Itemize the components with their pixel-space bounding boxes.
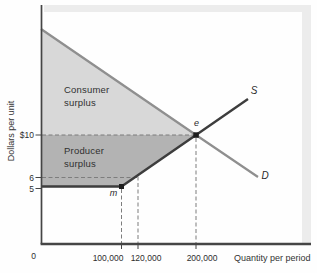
surplus-chart-figure: Dollars per unit $10 6 5 0 100,000 120,0… [0, 0, 317, 273]
x-tick-label-200000: 200,000 [187, 253, 218, 263]
demand-curve-label: D [261, 170, 268, 181]
y-tick-label-6: 6 [0, 173, 34, 183]
origin-label: 0 [31, 251, 36, 261]
supply-kink-point-marker [119, 184, 124, 189]
y-tick-label-10: $10 [0, 130, 34, 140]
x-tick-label-120000: 120,000 [131, 253, 162, 263]
supply-curve-label: S [251, 85, 258, 96]
frame-top-band [44, 5, 311, 12]
equilibrium-point-label: e [194, 118, 199, 128]
supply-kink-point-label: m [110, 188, 118, 198]
x-axis-title: Quantity per period [234, 253, 311, 263]
consumer-surplus-label: Consumer surplus [64, 83, 130, 109]
equilibrium-point-marker [193, 132, 199, 138]
x-tick-label-100000: 100,000 [93, 253, 124, 263]
producer-surplus-label: Producer surplus [64, 144, 130, 170]
chart-canvas [0, 0, 317, 273]
y-tick-label-5: 5 [0, 184, 34, 194]
frame-right-band [302, 6, 311, 244]
